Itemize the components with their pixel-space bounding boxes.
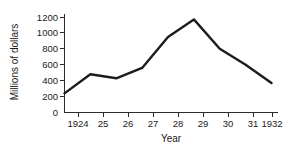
x-tick-label: 28 bbox=[173, 118, 184, 129]
y-tick-label: 0 bbox=[53, 107, 58, 118]
x-tick-label: 26 bbox=[123, 118, 134, 129]
y-tick-label: 200 bbox=[42, 91, 58, 102]
x-tick-label: 1924 bbox=[67, 118, 88, 129]
y-tick-label: 800 bbox=[42, 43, 58, 54]
chart-canvas: Millions of dollars 1200 1000 800 600 40… bbox=[0, 0, 286, 149]
y-axis-title: Millions of dollars bbox=[9, 24, 20, 101]
x-tick-label: 27 bbox=[148, 118, 159, 129]
line-chart: Millions of dollars 1200 1000 800 600 40… bbox=[0, 0, 286, 149]
x-tick-label: 1932 bbox=[261, 118, 282, 129]
x-axis-title: Year bbox=[161, 133, 182, 144]
x-tick-label: 25 bbox=[98, 118, 109, 129]
x-tick-label: 30 bbox=[223, 118, 234, 129]
y-tick-label: 1200 bbox=[37, 12, 58, 23]
y-tick-label: 400 bbox=[42, 75, 58, 86]
x-tick-label: 31 bbox=[248, 118, 259, 129]
y-tick-label: 1000 bbox=[37, 27, 58, 38]
x-tick-label: 29 bbox=[198, 118, 209, 129]
data-series-line bbox=[65, 19, 272, 93]
y-tick-label: 600 bbox=[42, 59, 58, 70]
